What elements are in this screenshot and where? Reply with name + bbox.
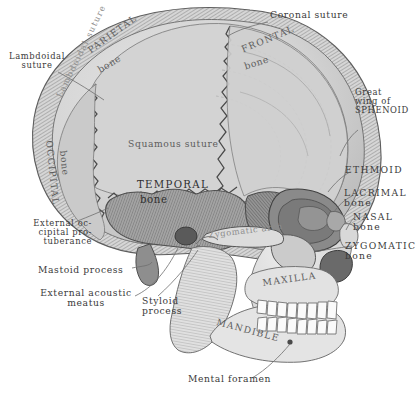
lower-tooth-5 xyxy=(297,319,307,334)
upper-tooth-7 xyxy=(317,302,327,319)
external-acoustic-meatus-opening xyxy=(175,227,197,245)
lower-tooth-3 xyxy=(277,317,287,332)
upper-tooth-2 xyxy=(267,301,277,316)
nasal-bone-shape xyxy=(340,224,358,249)
lower-tooth-2 xyxy=(267,317,277,331)
upper-tooth-1 xyxy=(257,300,267,314)
lower-tooth-4 xyxy=(287,318,297,333)
upper-tooth-3 xyxy=(277,302,287,317)
lower-tooth-7 xyxy=(317,320,327,334)
upper-tooth-8 xyxy=(327,301,337,319)
lower-tooth-1 xyxy=(257,317,267,331)
lower-tooth-8 xyxy=(327,320,337,334)
upper-tooth-6 xyxy=(307,303,317,319)
lower-tooth-6 xyxy=(307,319,317,334)
upper-tooth-5 xyxy=(297,303,307,319)
mental-foramen-point xyxy=(287,339,292,344)
upper-tooth-4 xyxy=(287,303,297,318)
